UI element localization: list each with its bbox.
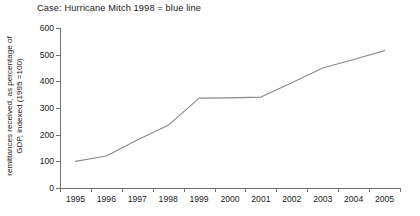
plot-area: 0100200300400500600 19951996199719981999… xyxy=(60,28,400,188)
x-tick-mark xyxy=(153,188,154,192)
x-tick-label: 2001 xyxy=(251,194,270,204)
x-tick-mark xyxy=(400,188,401,192)
x-tick-label: 2003 xyxy=(313,194,332,204)
y-tick-label: 300 xyxy=(40,103,54,113)
y-axis-title-line-2: GDP, indexed (1995 =100) xyxy=(15,18,25,193)
x-tick-mark xyxy=(122,188,123,192)
y-axis-title-line-1: remittances received, as percentage of xyxy=(5,18,15,193)
x-tick-mark xyxy=(184,188,185,192)
x-tick-label: 1995 xyxy=(66,194,85,204)
y-tick-label: 400 xyxy=(40,76,54,86)
x-tick-label: 2002 xyxy=(282,194,301,204)
x-tick-label: 2000 xyxy=(220,194,239,204)
x-tick-label: 1997 xyxy=(128,194,147,204)
x-tick-mark xyxy=(60,188,61,192)
x-tick-label: 1998 xyxy=(159,194,178,204)
chart-title: Case: Hurricane Mitch 1998 = blue line xyxy=(37,3,201,13)
series-hurricane-mitch-1998 xyxy=(60,28,400,188)
x-tick-mark xyxy=(215,188,216,192)
y-tick-label: 600 xyxy=(40,23,54,33)
line-path xyxy=(75,51,384,162)
x-tick-label: 1999 xyxy=(190,194,209,204)
x-tick-mark xyxy=(307,188,308,192)
x-tick-mark xyxy=(276,188,277,192)
x-tick-label: 1996 xyxy=(97,194,116,204)
x-tick-mark xyxy=(369,188,370,192)
y-tick-label: 500 xyxy=(40,50,54,60)
x-axis-line xyxy=(60,188,400,189)
x-tick-mark xyxy=(338,188,339,192)
y-tick-label: 0 xyxy=(49,183,54,193)
x-tick-label: 2005 xyxy=(375,194,394,204)
y-tick-label: 200 xyxy=(40,130,54,140)
x-tick-label: 2004 xyxy=(344,194,363,204)
y-tick-label: 100 xyxy=(40,156,54,166)
x-tick-mark xyxy=(245,188,246,192)
chart-figure: Case: Hurricane Mitch 1998 = blue line r… xyxy=(0,0,420,216)
y-axis-title: remittances received, as percentage of G… xyxy=(0,18,30,193)
x-tick-mark xyxy=(91,188,92,192)
